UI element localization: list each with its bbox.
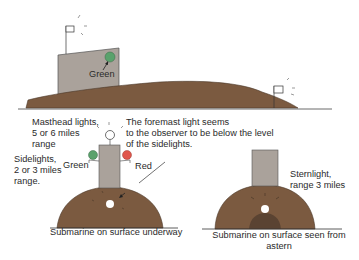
stern-flag-icon [274, 86, 283, 93]
side-green-light-icon [105, 52, 115, 62]
bow-tower [99, 145, 120, 188]
stern-tower [252, 150, 278, 186]
bow-caption: Submarine on surface underway [50, 227, 182, 238]
side-flag-icon [66, 26, 74, 32]
side-green-label: Green [89, 69, 115, 80]
sternlight-label: Sternlight, range 3 miles [290, 169, 345, 191]
masthead-light-icon [106, 131, 115, 140]
stern-caption: Submarine on surface seen from astern [204, 230, 354, 252]
bow-green-label: Green [63, 160, 89, 171]
bow-green-sidelight-icon [89, 151, 98, 160]
bow-red-label: Red [135, 161, 152, 172]
sternlight-icon [261, 205, 269, 213]
side-view-submarine [18, 15, 332, 109]
bow-red-sidelight-icon [123, 151, 132, 160]
sidelights-label: Sidelights, 2 or 3 miles range. [14, 154, 62, 187]
bow-white-light-icon [106, 200, 114, 208]
foremast-note: The foremast light seems to the observer… [126, 117, 274, 150]
masthead-lights-label: Masthead lights, 5 or 6 miles range [32, 117, 99, 150]
